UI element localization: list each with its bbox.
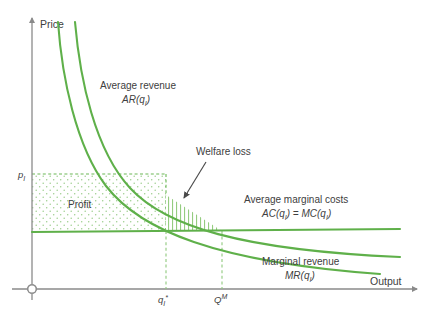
tick-label-Q-M: QM — [214, 293, 227, 306]
tick-label-q-I-star: qI* — [158, 294, 168, 307]
origin-circle-inner-icon — [28, 285, 36, 293]
average-marginal-cost-label-line2: AC(qI) = MC(qI) — [261, 208, 331, 221]
tick-label-p-I: pI — [17, 169, 25, 182]
welfare-loss-arrow-icon — [184, 162, 206, 198]
average-marginal-cost-label-line1: Average marginal costs — [244, 194, 348, 205]
x-axis-label: Output — [370, 275, 402, 287]
average-revenue-label-line1: Average revenue — [100, 80, 176, 91]
axes — [12, 18, 417, 300]
marginal-revenue-label-line1: Marginal revenue — [262, 256, 340, 267]
welfare-loss-label: Welfare loss — [196, 146, 251, 157]
profit-label: Profit — [68, 199, 92, 210]
welfare-loss-callout: Welfare loss — [184, 146, 251, 198]
y-axis-label: Price — [40, 18, 64, 30]
economics-diagram: Profit Price Output — [0, 0, 433, 327]
marginal-revenue-label-line2: MR(qI) — [285, 270, 315, 283]
diagram-canvas: Profit Price Output — [0, 0, 433, 327]
guide-lines — [166, 231, 222, 289]
average-revenue-label-line2: AR(qI) — [121, 94, 150, 107]
